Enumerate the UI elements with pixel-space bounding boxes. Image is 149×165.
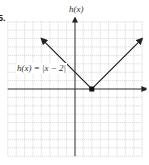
vertex-point [89,87,94,92]
function-label: h(x) = |x − 2| [16,63,67,73]
graph [0,0,149,165]
